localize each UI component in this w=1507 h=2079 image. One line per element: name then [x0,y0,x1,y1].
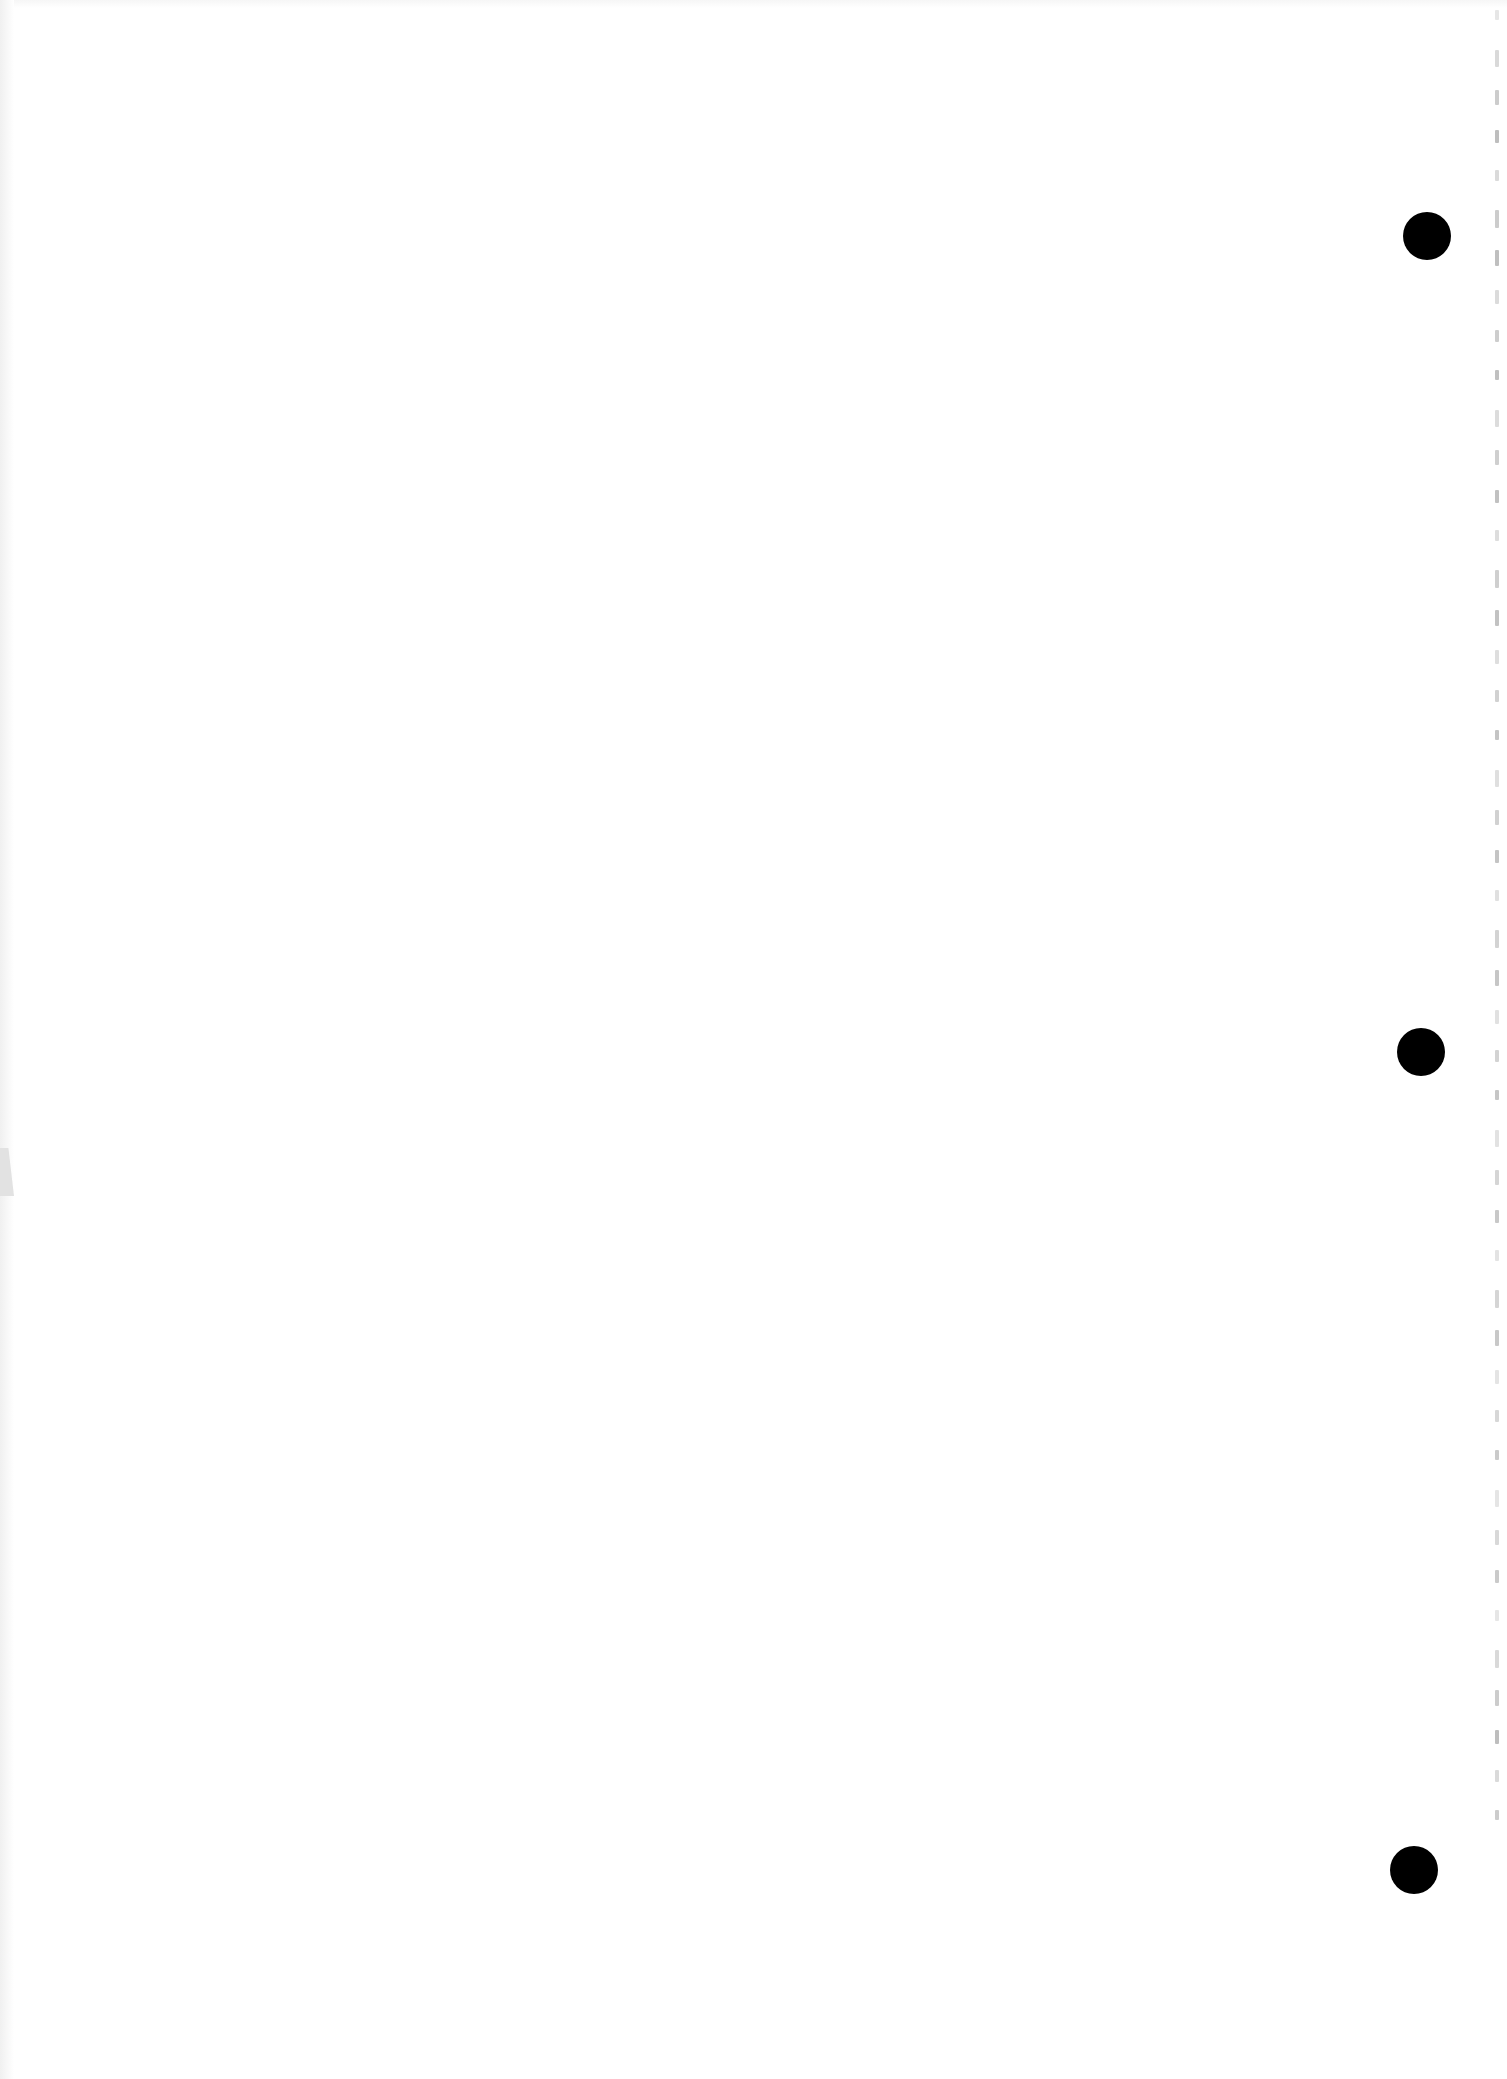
bleed-through-mark [1495,10,1499,20]
scanned-page [0,0,1507,2079]
bleed-through-mark [1495,1690,1499,1706]
bleed-through-mark [1495,410,1499,427]
bleed-through-mark [1495,490,1499,503]
bleed-through-mark [1495,1570,1499,1583]
bleed-through-mark [1495,1090,1499,1100]
bleed-through-mark [1495,1610,1499,1621]
bleed-through-mark [1495,250,1499,266]
bleed-through-mark [1495,1450,1499,1460]
bleed-through-mark [1495,690,1499,702]
bleed-through-mark [1495,610,1499,626]
bleed-through-mark [1495,1730,1499,1744]
scan-left-edge-shadow [0,0,14,2079]
punch-hole-3 [1390,1846,1438,1894]
bleed-through-mark [1495,890,1499,901]
bleed-through-mark [1495,170,1499,181]
bleed-through-mark [1495,1810,1499,1820]
bleed-through-mark [1495,1050,1499,1062]
bleed-through-text-column [1491,0,1507,2079]
bleed-through-mark [1495,1010,1499,1024]
bleed-through-mark [1495,1330,1499,1346]
bleed-through-mark [1495,290,1499,304]
bleed-through-mark [1495,570,1499,588]
bleed-through-mark [1495,370,1499,380]
punch-hole-1 [1403,212,1451,260]
bleed-through-mark [1495,1170,1499,1185]
bleed-through-mark [1495,330,1499,342]
bleed-through-mark [1495,1250,1499,1261]
bleed-through-mark [1495,970,1499,986]
bleed-through-mark [1495,1530,1499,1545]
bleed-through-mark [1495,930,1499,948]
bleed-through-mark [1495,810,1499,825]
bleed-through-mark [1495,650,1499,664]
bleed-through-mark [1495,1290,1499,1308]
bleed-through-mark [1495,90,1499,105]
bleed-through-mark [1495,530,1499,541]
bleed-through-mark [1495,1130,1499,1147]
bleed-through-mark [1495,730,1499,740]
bleed-through-mark [1495,1490,1499,1507]
scan-top-shadow [0,0,1507,8]
bleed-through-mark [1495,1410,1499,1422]
bleed-through-mark [1495,1650,1499,1668]
bleed-through-mark [1495,130,1499,143]
bleed-through-mark [1495,450,1499,465]
bleed-through-mark [1495,850,1499,863]
bleed-through-mark [1495,210,1499,228]
punch-hole-2 [1397,1028,1445,1076]
bleed-through-mark [1495,50,1499,67]
bleed-through-mark [1495,1370,1499,1384]
bleed-through-mark [1495,1770,1499,1782]
bleed-through-mark [1495,1210,1499,1223]
bleed-through-mark [1495,770,1499,787]
